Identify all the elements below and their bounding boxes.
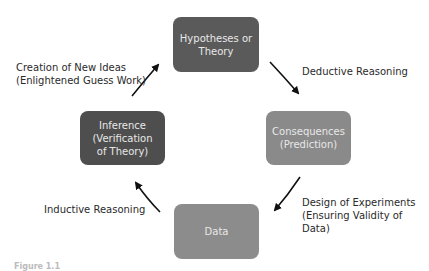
edge-label-deductive: Deductive Reasoning <box>302 65 408 78</box>
arrow-design <box>275 177 300 210</box>
edge-label-creation: Creation of New Ideas (Enlightened Guess… <box>16 61 146 87</box>
edge-label-inductive: Inductive Reasoning <box>44 203 145 216</box>
figure-caption: Figure 1.1 <box>14 262 60 271</box>
edge-label-design: Design of Experiments (Ensuring Validity… <box>302 196 429 235</box>
arrow-deductive <box>270 62 298 93</box>
